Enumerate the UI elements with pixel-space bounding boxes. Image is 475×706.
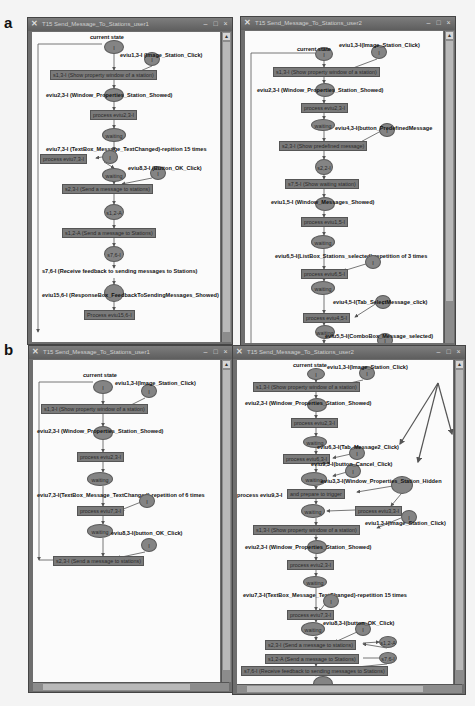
annotation-arrow [438, 383, 452, 434]
annotation-arrow [400, 383, 438, 444]
annotation-arrows [0, 0, 475, 706]
annotation-arrow [418, 383, 438, 462]
